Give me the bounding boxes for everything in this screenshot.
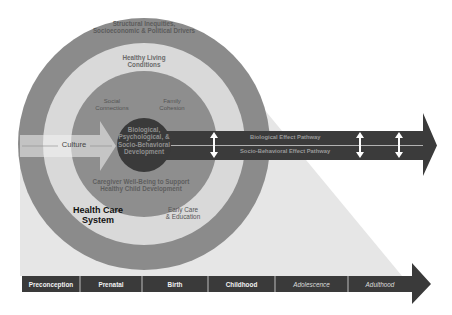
label-line: Structural Inequities, [93,20,195,27]
core-development-label: Biological, Psychological, & Socio-Behav… [118,126,170,155]
diagram-graphics [0,0,452,315]
family-cohesion-label: Family Cohesion [159,98,184,112]
healthy-living-label: Healthy Living Conditions [122,54,165,68]
label-line: Cohesion [159,105,184,112]
label-line: Healthy Child Development [93,185,190,192]
life-course-diagram: Structural Inequities, Socioeconomic & P… [0,0,452,315]
biological-pathway-label: Biological Effect Pathway [250,134,321,141]
timeline-stage-adulthood: Adulthood [348,276,412,292]
structural-inequities-label: Structural Inequities, Socioeconomic & P… [93,20,195,34]
social-connections-label: Social Connections [95,98,128,112]
timeline-stage-birth: Birth [142,276,208,292]
label-line: Healthy Living [122,54,165,61]
caregiver-wellbeing-label: Caregiver Well-Being to Support Healthy … [93,178,190,192]
label-line: Biological, [118,126,170,133]
label-line: Development [118,148,170,155]
label-line: Socio-Behavioral [118,141,170,148]
label-line: Connections [95,105,128,112]
timeline-stage-adolescence: Adolescence [275,276,348,292]
label-line: Family [159,98,184,105]
timeline-stage-childhood: Childhood [208,276,275,292]
label-line: Early Care [166,206,200,213]
culture-label: Culture [62,141,86,150]
timeline-stage-prenatal: Prenatal [80,276,142,292]
early-care-education-label: Early Care & Education [166,206,200,221]
label-line: Conditions [122,61,165,68]
label-line: Psychological, & [118,133,170,140]
timeline-stage-preconception: Preconception [22,276,80,292]
label-line: & Education [166,213,200,220]
socio-behavioral-pathway-label: Socio-Behavioral Effect Pathway [240,148,330,155]
label-line: Health Care [73,205,123,215]
label-line: Caregiver Well-Being to Support [93,178,190,185]
label-line: System [73,215,123,225]
label-line: Social [95,98,128,105]
label-line: Socioeconomic & Political Drivers [93,27,195,34]
health-care-system-label: Health Care System [73,205,123,226]
